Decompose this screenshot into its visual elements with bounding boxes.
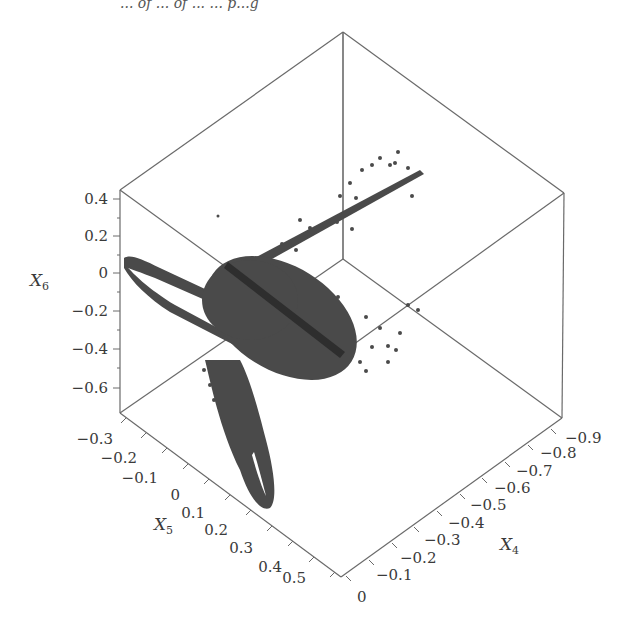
z-tick-label: 0.4	[84, 190, 108, 208]
x-tick-label: 0	[357, 588, 367, 606]
z-tick-label: 0.2	[84, 227, 108, 245]
y-tick-label: 0	[170, 486, 180, 504]
y-tick-label: 0.4	[258, 558, 282, 576]
caption-fragment: ... of ... of ... ... p...g	[120, 0, 259, 11]
x-tick-label: −0.4	[448, 514, 484, 532]
y-tick-label: 0.5	[282, 569, 306, 587]
z-tick-label: −0.2	[72, 302, 108, 320]
data-points	[124, 150, 424, 509]
y-tick-label: 0.1	[181, 504, 205, 522]
y-tick-label: −0.2	[101, 449, 137, 467]
x-axis: 0 −0.1 −0.2 −0.3 −0.4 −0.5 −0.6 −0.7 −0.…	[346, 429, 601, 606]
y-tick-label: −0.1	[122, 469, 158, 487]
x-tick-label: −0.2	[400, 549, 436, 567]
x-axis-title: X4	[498, 534, 519, 557]
x-tick-label: −0.9	[565, 429, 601, 447]
z-tick-label: −0.4	[72, 340, 108, 358]
z-axis: 0.4 0.2 0 −0.2 −0.4 −0.6 X6	[28, 190, 120, 397]
x-tick-label: −0.7	[516, 462, 552, 480]
y-tick-label: 0.3	[229, 539, 253, 557]
scatter-3d-chart: ... of ... of ... ... p...g	[0, 0, 630, 629]
z-axis-title: X6	[28, 270, 49, 293]
x-tick-label: −0.1	[376, 566, 412, 584]
y-tick-label: −0.3	[77, 430, 113, 448]
x-tick-label: −0.6	[494, 479, 530, 497]
y-axis: −0.3 −0.2 −0.1 0 0.1 0.2 0.3 0.4 0.5 X5	[77, 418, 335, 587]
y-axis-title: X5	[152, 514, 173, 537]
x-tick-label: −0.3	[424, 531, 460, 549]
x-tick-label: −0.5	[470, 496, 506, 514]
z-tick-label: 0	[98, 264, 108, 282]
z-tick-label: −0.6	[72, 379, 108, 397]
y-tick-label: 0.2	[204, 521, 228, 539]
